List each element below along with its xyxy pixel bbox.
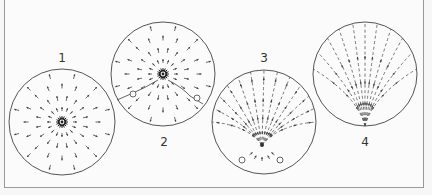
radial-arrow-icon <box>61 107 63 109</box>
field-arrow-icon <box>364 103 366 105</box>
field-arrow-icon <box>364 56 366 58</box>
radial-arrow-icon <box>162 111 164 113</box>
radial-arrow-icon <box>61 135 63 137</box>
field-arrow-icon <box>364 81 366 83</box>
field-arrow-icon <box>366 103 368 105</box>
radial-arrow-icon <box>61 159 63 161</box>
radial-arrow-icon <box>162 59 164 61</box>
field-arrow-icon <box>261 157 263 159</box>
panel-label-2: 2 <box>160 135 168 149</box>
radial-arrow-icon <box>125 73 127 75</box>
diagram-canvas: 1 2 3 4 <box>0 0 432 195</box>
field-line <box>212 122 262 145</box>
marker-circle-icon <box>130 91 136 97</box>
field-diagrams <box>0 0 432 195</box>
panel-label-1: 1 <box>58 51 66 65</box>
radial-arrow-icon <box>75 121 77 123</box>
radial-arrow-icon <box>162 87 164 89</box>
field-line <box>238 77 262 145</box>
radial-arrow-icon <box>24 121 26 123</box>
field-arrow-icon <box>362 103 364 105</box>
field-line <box>262 122 316 145</box>
field-arrow-icon <box>262 99 264 101</box>
radial-arrow-icon <box>61 84 63 86</box>
radial-arrow-icon <box>176 73 178 75</box>
panel-label-3: 3 <box>260 51 268 65</box>
field-line <box>365 29 391 126</box>
radial-arrow-icon <box>162 36 164 38</box>
field-line <box>339 29 365 126</box>
source-icon <box>162 73 165 76</box>
field-line <box>262 77 290 145</box>
marker-circle-icon <box>239 157 245 163</box>
field-line <box>262 109 314 145</box>
source-icon <box>61 121 64 124</box>
radial-arrow-icon <box>99 121 101 123</box>
marker-circle-icon <box>194 95 200 101</box>
field-line <box>262 85 301 145</box>
field-arrow-icon <box>261 131 263 133</box>
panel-label-4: 4 <box>361 135 369 149</box>
radial-arrow-icon <box>148 73 150 75</box>
field-arrow-icon <box>263 78 265 80</box>
marker-circle-icon <box>277 157 283 163</box>
field-arrow-icon <box>262 117 264 119</box>
dendrite-line <box>117 80 158 100</box>
field-line <box>262 96 309 145</box>
radial-arrow-icon <box>47 121 49 123</box>
radial-arrow-icon <box>200 73 202 75</box>
source-icon <box>260 143 264 147</box>
field-line <box>214 109 262 145</box>
field-line <box>219 96 262 145</box>
